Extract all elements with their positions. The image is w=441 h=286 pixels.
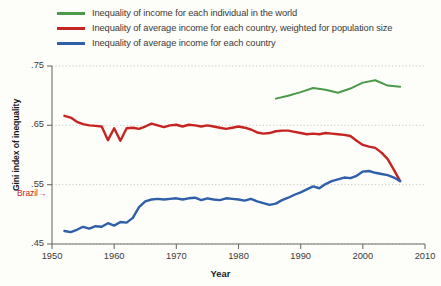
series-line xyxy=(276,80,400,98)
gini-inequality-line-chart: Inequality of income for each individual… xyxy=(0,0,441,286)
x-axis-tick-label: 1960 xyxy=(94,251,134,261)
x-axis-tick-label: 2010 xyxy=(405,251,441,261)
legend-swatch-green xyxy=(57,12,85,15)
x-axis-tick-label: 1970 xyxy=(156,251,196,261)
legend-item-world-individual: Inequality of income for each individual… xyxy=(57,6,437,20)
x-axis-tick-label: 1990 xyxy=(281,251,321,261)
legend-swatch-red xyxy=(57,27,85,30)
brazil-annotation: Brazil→ xyxy=(17,188,46,198)
series-line xyxy=(64,171,400,232)
x-axis-tick-label: 1950 xyxy=(32,251,72,261)
y-axis-tick-label: .45 xyxy=(10,238,44,248)
legend-item-country-unweighted: Inequality of average income for each co… xyxy=(57,36,437,50)
y-axis-tick-label: .75 xyxy=(10,60,44,70)
x-axis-tick-label: 2000 xyxy=(343,251,383,261)
chart-legend: Inequality of income for each individual… xyxy=(57,6,437,51)
legend-swatch-blue xyxy=(57,42,85,45)
legend-label-country-weighted: Inequality of average income for each co… xyxy=(92,23,392,33)
legend-label-country-unweighted: Inequality of average income for each co… xyxy=(92,38,276,48)
x-axis-tick-label: 1980 xyxy=(219,251,259,261)
legend-item-country-weighted: Inequality of average income for each co… xyxy=(57,21,437,35)
y-axis-tick-label: .65 xyxy=(10,119,44,129)
x-axis-title: Year xyxy=(0,268,441,279)
legend-label-world-individual: Inequality of income for each individual… xyxy=(92,8,297,18)
